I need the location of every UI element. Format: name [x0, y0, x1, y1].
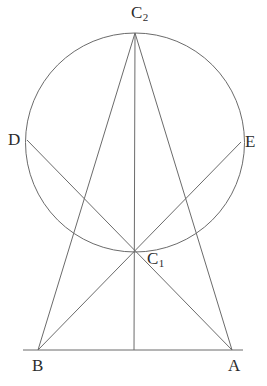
vertex-label-e: E: [245, 133, 255, 150]
vertex-label-c2-text: C: [131, 3, 142, 22]
chord-D-to-A: [27, 140, 232, 350]
vertex-label-b: B: [32, 357, 43, 374]
axis-C2-to-foot: [134, 33, 135, 350]
vertex-label-c1: C1: [147, 250, 164, 267]
chord-C2-to-A: [135, 33, 232, 350]
vertex-label-b-text: B: [32, 356, 43, 375]
vertex-label-a: A: [228, 357, 240, 374]
vertex-label-c2-sub: 2: [143, 11, 149, 23]
vertex-label-d: D: [8, 131, 20, 148]
vertex-label-d-text: D: [8, 130, 20, 149]
geometry-figure: C2 C1 D E B A: [0, 0, 267, 386]
vertex-label-e-text: E: [245, 132, 255, 151]
chord-E-to-B: [38, 142, 241, 350]
geometry-canvas: [0, 0, 267, 386]
chord-C2-to-B: [38, 33, 135, 350]
vertex-label-a-text: A: [228, 356, 240, 375]
vertex-label-c1-text: C: [147, 249, 158, 268]
vertex-label-c1-sub: 1: [159, 257, 165, 269]
vertex-label-c2: C2: [131, 4, 148, 21]
